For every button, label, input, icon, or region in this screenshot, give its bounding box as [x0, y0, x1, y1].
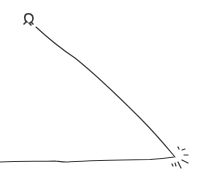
sketch-drawing — [0, 0, 200, 189]
impact-sparks-icon — [172, 147, 188, 168]
diagonal-stick — [36, 27, 175, 157]
ground-line — [0, 157, 174, 162]
stick-head-icon — [24, 14, 33, 25]
sketch-canvas — [0, 0, 200, 189]
